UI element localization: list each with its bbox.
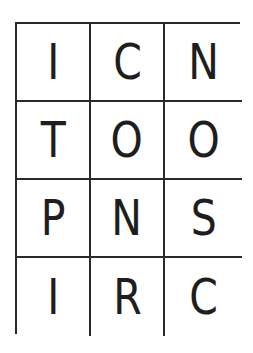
grid-cell-r4c1[interactable]: I (17, 258, 91, 336)
cell-letter: C (189, 272, 218, 322)
grid-cell-r2c2[interactable]: O (91, 102, 165, 180)
cell-letter: C (113, 37, 142, 87)
letter-grid: I C N T O O P N S I R C (15, 22, 240, 334)
grid-cell-r2c3[interactable]: O (165, 102, 242, 180)
grid-cell-r1c2[interactable]: C (91, 24, 165, 102)
cell-letter: I (47, 272, 59, 322)
cell-letter: S (190, 193, 216, 243)
grid-cell-r2c1[interactable]: T (17, 102, 91, 180)
cell-letter: R (113, 272, 141, 322)
grid-cell-r3c3[interactable]: S (165, 180, 242, 258)
grid-cell-r1c1[interactable]: I (17, 24, 91, 102)
cell-letter: O (111, 115, 143, 165)
cell-letter: P (41, 193, 66, 243)
grid-cell-r3c1[interactable]: P (17, 180, 91, 258)
cell-letter: I (47, 37, 59, 87)
cell-letter: T (40, 115, 65, 165)
cell-letter: N (188, 37, 219, 87)
cell-letter: N (112, 193, 143, 243)
grid-cell-r3c2[interactable]: N (91, 180, 165, 258)
grid-cell-r4c3[interactable]: C (165, 258, 242, 336)
grid-cell-r4c2[interactable]: R (91, 258, 165, 336)
cell-letter: O (187, 115, 219, 165)
grid-cell-r1c3[interactable]: N (165, 24, 242, 102)
